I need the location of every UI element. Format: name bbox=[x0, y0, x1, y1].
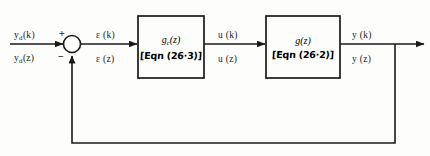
output-signal-z-label: y (z) bbox=[352, 55, 371, 65]
plant-block: g(z) [Eqn (26·2)] bbox=[266, 16, 340, 78]
control-signal-discrete-label: u (k) bbox=[218, 31, 238, 41]
control-signal-z-label: u (z) bbox=[218, 55, 237, 65]
plant-equation-reference: [Eqn (26·2)] bbox=[266, 49, 341, 60]
diagram-wires-layer bbox=[0, 0, 430, 156]
error-signal-z-label: ε (z) bbox=[96, 55, 114, 65]
block-diagram-canvas: yd(k) yd(z) + − ε (k) ε (z) gc(z) [Eqn (… bbox=[0, 0, 430, 156]
summing-junction-plus-sign: + bbox=[59, 29, 65, 39]
controller-equation-reference: [Eqn (26·3)] bbox=[138, 50, 205, 61]
summing-junction-minus-sign: − bbox=[58, 52, 64, 62]
reference-input-z-label: yd(z) bbox=[14, 54, 34, 65]
error-signal-discrete-label: ε (k) bbox=[96, 31, 115, 41]
output-signal-discrete-label: y (k) bbox=[352, 31, 372, 41]
plant-transfer-function-label: g(z) bbox=[266, 35, 340, 46]
summing-junction-circle bbox=[64, 36, 81, 53]
controller-block: gc(z) [Eqn (26·3)] bbox=[138, 16, 204, 78]
controller-transfer-function-label: gc(z) bbox=[138, 34, 204, 47]
reference-input-discrete-label: yd(k) bbox=[14, 31, 35, 42]
